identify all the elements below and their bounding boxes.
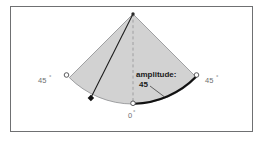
pivot-point-marker (131, 12, 134, 15)
figure-root: 45 ° 45 ° 0 ° amplitude: 45 (0, 0, 264, 141)
center-angle-degree-sign: ° (133, 109, 136, 115)
right-angle-label: 45 (205, 76, 213, 85)
left-extreme-marker[interactable] (64, 73, 69, 78)
amplitude-value-label: 45 (139, 80, 148, 89)
amplitude-title-label: amplitude: (136, 70, 176, 79)
right-angle-degree-sign: ° (216, 74, 219, 80)
center-angle-label: 0 (128, 111, 132, 120)
equilibrium-marker[interactable] (131, 101, 136, 106)
right-extreme-marker[interactable] (194, 73, 199, 78)
pendulum-bob-marker[interactable] (88, 95, 95, 102)
left-angle-degree-sign: ° (49, 74, 52, 80)
left-angle-label: 45 (38, 76, 46, 85)
pendulum-diagram: 45 ° 45 ° 0 ° amplitude: 45 (0, 0, 264, 141)
